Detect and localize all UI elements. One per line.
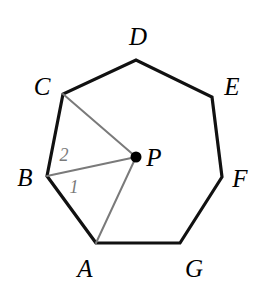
geometry-figure: ABCDEFG 21 P <box>0 0 264 293</box>
angle-label-2: 2 <box>60 146 69 164</box>
segment-pc <box>63 94 136 157</box>
center-point-group <box>131 152 142 163</box>
angle-label-1: 1 <box>70 178 79 196</box>
segment-pa <box>96 157 136 243</box>
vertex-label-a: A <box>77 256 92 281</box>
vertex-label-b: B <box>17 165 32 190</box>
vertex-label-g: G <box>185 256 203 281</box>
center-point-dot <box>131 152 142 163</box>
heptagon-outline-group <box>47 60 222 243</box>
heptagon-outline <box>47 60 222 243</box>
vertex-label-d: D <box>129 24 147 49</box>
vertex-label-c: C <box>34 74 51 99</box>
vertex-label-f: F <box>232 166 247 191</box>
center-rays-group <box>47 94 136 243</box>
vertex-label-e: E <box>224 74 239 99</box>
center-point-label: P <box>146 145 161 170</box>
